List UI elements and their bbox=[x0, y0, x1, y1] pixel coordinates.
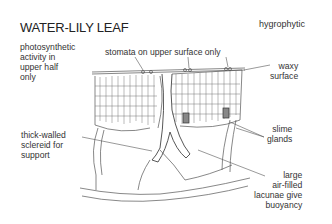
leader-lacunae bbox=[198, 150, 265, 176]
leader-stomata-2 bbox=[188, 57, 189, 68]
leaf-cross-section bbox=[0, 0, 332, 224]
leader-slime-1 bbox=[230, 122, 264, 137]
leader-stomata-1 bbox=[135, 57, 143, 70]
leader-waxy bbox=[244, 65, 270, 70]
leader-sclereid bbox=[82, 137, 152, 151]
leader-slime-2 bbox=[236, 128, 264, 137]
leader-stomata-3 bbox=[226, 57, 228, 67]
